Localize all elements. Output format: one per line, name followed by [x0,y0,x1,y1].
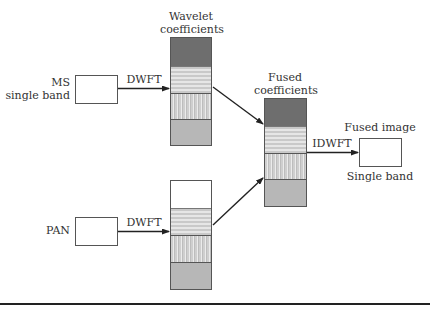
bottom-rule [0,303,430,305]
connector-arrows [0,0,430,311]
pan-to-fused-arrow [213,178,263,225]
ms-to-fused-arrow [213,87,263,124]
